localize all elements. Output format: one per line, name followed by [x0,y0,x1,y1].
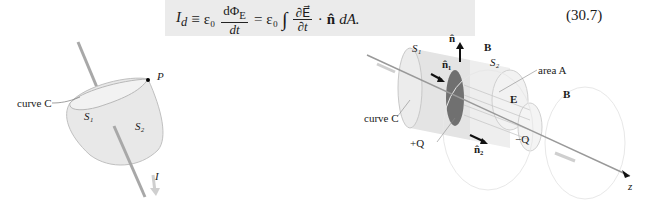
label-n-hat: n̂ [449,32,455,44]
label-b-field-2: B⃗ [563,88,579,100]
label-minus-q: −Q [515,133,529,145]
label-n1-hat: n̂₁ [442,58,451,70]
right-figure [0,0,651,204]
label-s1-right: S₁ [412,42,421,54]
label-s2-right: S₂ [490,56,499,68]
label-plus-q: +Q [410,137,424,149]
label-b-field-1: B⃗ [484,41,500,53]
label-curve-c-right: curve C [364,112,399,124]
label-n2-hat: n̂₂ [474,143,483,155]
label-e-field: E⃗ [510,93,526,105]
label-area-a: area A [538,64,566,76]
label-z-axis: z [628,180,632,192]
